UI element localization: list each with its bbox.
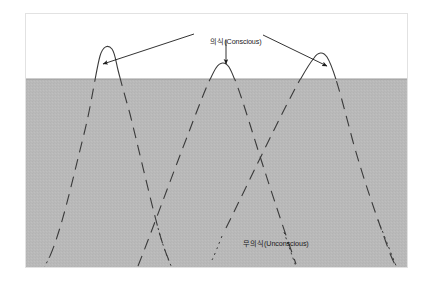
figure-root: 의식(Conscious) 무의식(Unconscious) — [0, 0, 434, 286]
diagram-frame: 의식(Conscious) 무의식(Unconscious) — [25, 13, 408, 268]
iceberg-diagram-svg — [26, 14, 407, 267]
conscious-region — [26, 14, 407, 79]
unconscious-region — [26, 79, 407, 267]
unconscious-label: 무의식(Unconscious) — [221, 238, 331, 248]
conscious-label: 의식(Conscious) — [191, 36, 281, 46]
